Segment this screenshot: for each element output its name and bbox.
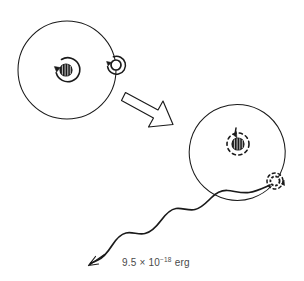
initial-atom-group xyxy=(18,21,125,119)
photon-energy-mantissa: 9.5 × 10 xyxy=(122,257,160,268)
diagram-canvas: 9.5 × 10−18 erg xyxy=(0,0,304,281)
photon-energy-unit: erg xyxy=(172,257,190,268)
initial-nucleus-spin-arrowhead-icon xyxy=(54,67,60,72)
photon-energy-exponent: −18 xyxy=(160,256,172,263)
transition-arrow-group xyxy=(122,93,174,128)
photon-arrowhead-icon xyxy=(89,255,105,266)
final-nucleus-spin-tail-icon xyxy=(235,128,236,133)
initial-electron xyxy=(111,60,121,70)
photon-energy-label: 9.5 × 10−18 erg xyxy=(122,256,190,268)
final-atom-group xyxy=(189,104,285,200)
block-arrow-icon xyxy=(122,93,174,128)
photon-group xyxy=(89,185,271,266)
photon-wave-icon xyxy=(91,185,271,263)
final-electron xyxy=(270,176,279,185)
atomic-emission-diagram: 9.5 × 10−18 erg xyxy=(0,0,304,281)
final-atom-orbit-circle xyxy=(189,104,285,200)
